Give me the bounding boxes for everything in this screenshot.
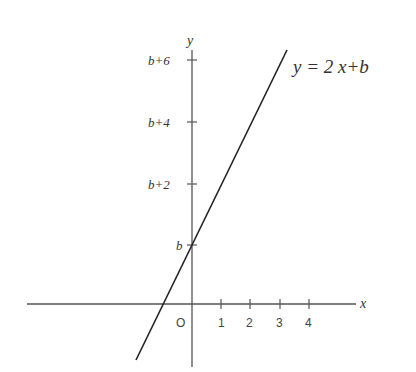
x-tick-label-3: 3	[276, 316, 283, 330]
y-tick-label-b4: b+4	[148, 115, 170, 130]
y-tick-label-b2: b+2	[148, 177, 170, 192]
y-axis-label: y	[185, 33, 194, 48]
x-tick-label-2: 2	[246, 316, 253, 330]
chart-canvas: y x O 1 2 3 4 b+6 b+4 b+2 b y = 2 x+b	[0, 0, 416, 372]
x-tick-label-4: 4	[305, 316, 312, 330]
x-axis-label: x	[359, 296, 367, 311]
x-tick-label-1: 1	[218, 316, 225, 330]
equation-label: y = 2 x+b	[291, 56, 369, 77]
y-tick-label-b: b	[176, 238, 183, 253]
origin-label: O	[176, 316, 185, 330]
line-y-2x-plus-b	[136, 50, 287, 360]
y-tick-label-b6: b+6	[148, 53, 170, 68]
